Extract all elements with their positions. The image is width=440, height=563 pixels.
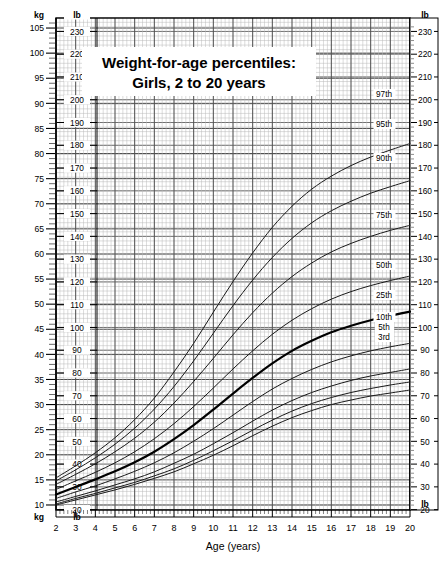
kg-tick-label-left: 65 — [34, 224, 44, 234]
x-tick-label-15: 15 — [307, 523, 317, 533]
lb-tick-label-left: 190 — [70, 118, 84, 128]
lb-tick-label-right: 30 — [420, 482, 430, 492]
x-tick-label-3: 3 — [73, 523, 78, 533]
kg-tick-label-left: 75 — [34, 174, 44, 184]
kg-tick-label-left: 85 — [34, 124, 44, 134]
x-tick-label-17: 17 — [346, 523, 356, 533]
lb-tick-label-left: 180 — [70, 140, 84, 150]
lb-tick-label-left: 200 — [70, 95, 84, 105]
kg-tick-label-left: 20 — [34, 450, 44, 460]
lb-tick-label-left: 150 — [70, 209, 84, 219]
x-tick-label-4: 4 — [93, 523, 98, 533]
kg-tick-label-left: 15 — [34, 475, 44, 485]
kg-tick-label-left: 45 — [34, 324, 44, 334]
x-tick-label-20: 20 — [405, 523, 415, 533]
chart-title-line1: Weight-for-age percentiles: — [102, 54, 296, 71]
lb-unit-top-left: lb — [73, 10, 81, 20]
lb-tick-label-right: 220 — [418, 49, 432, 59]
lb-tick-label-right: 60 — [420, 414, 430, 424]
lb-tick-label-left: 120 — [70, 277, 84, 287]
lb-tick-label-left: 80 — [72, 368, 82, 378]
kg-tick-label-left: 25 — [34, 425, 44, 435]
lb-tick-label-right: 190 — [418, 118, 432, 128]
lb-tick-label-right: 230 — [418, 27, 432, 37]
growth-chart-svg: 1051009590858075706560555045403530252015… — [0, 0, 440, 563]
kg-tick-label-left: 70 — [34, 199, 44, 209]
kg-tick-label-left: 95 — [34, 73, 44, 83]
x-tick-label-18: 18 — [366, 523, 376, 533]
lb-tick-label-left: 140 — [70, 232, 84, 242]
lb-tick-label-left: 50 — [72, 437, 82, 447]
lb-tick-label-left: 110 — [70, 300, 84, 310]
lb-tick-label-left: 90 — [72, 345, 82, 355]
lb-tick-label-right: 120 — [418, 277, 432, 287]
lb-tick-label-right: 200 — [418, 95, 432, 105]
percentile-label-97th: 97th — [376, 90, 392, 99]
kg-unit-bottom-left: kg — [34, 512, 44, 522]
lb-tick-label-right: 160 — [418, 186, 432, 196]
kg-tick-label-left: 50 — [34, 299, 44, 309]
lb-tick-label-left: 230 — [70, 27, 84, 37]
kg-tick-label-left: 80 — [34, 149, 44, 159]
kg-tick-label-left: 40 — [34, 350, 44, 360]
x-axis-title: Age (years) — [206, 540, 260, 552]
lb-tick-label-right: 80 — [420, 368, 430, 378]
x-tick-label-5: 5 — [112, 523, 117, 533]
lb-tick-label-right: 130 — [418, 254, 432, 264]
lb-tick-label-right: 180 — [418, 140, 432, 150]
kg-tick-label-left: 60 — [34, 249, 44, 259]
lb-unit-bottom-right: lb — [421, 499, 429, 509]
lb-tick-label-left: 70 — [72, 391, 82, 401]
lb-tick-label-right: 140 — [418, 232, 432, 242]
percentile-label-90th: 90th — [376, 154, 392, 163]
x-tick-label-7: 7 — [152, 523, 157, 533]
kg-tick-label-left: 55 — [34, 274, 44, 284]
x-tick-label-8: 8 — [171, 523, 176, 533]
lb-tick-label-left: 130 — [70, 254, 84, 264]
lb-tick-label-left: 100 — [70, 323, 84, 333]
x-tick-label-13: 13 — [267, 523, 277, 533]
x-tick-label-6: 6 — [132, 523, 137, 533]
percentile-label-3rd: 3rd — [378, 333, 390, 342]
kg-tick-label-left: 105 — [30, 23, 45, 33]
kg-unit-top-left: kg — [34, 10, 44, 20]
kg-tick-label-left: 30 — [34, 400, 44, 410]
percentile-label-50th: 50th — [376, 261, 392, 270]
lb-tick-label-right: 70 — [420, 391, 430, 401]
x-tick-label-10: 10 — [208, 523, 218, 533]
percentile-label-10th: 10th — [376, 313, 392, 322]
lb-tick-label-left: 170 — [70, 163, 84, 173]
x-tick-label-9: 9 — [191, 523, 196, 533]
lb-tick-label-right: 50 — [420, 437, 430, 447]
lb-tick-label-right: 150 — [418, 209, 432, 219]
lb-unit-top-right: lb — [421, 10, 429, 20]
lb-tick-label-right: 210 — [418, 72, 432, 82]
lb-tick-label-right: 90 — [420, 345, 430, 355]
lb-tick-label-left: 60 — [72, 414, 82, 424]
percentile-label-95th: 95th — [376, 120, 392, 129]
x-tick-label-11: 11 — [228, 523, 237, 533]
lb-tick-label-right: 170 — [418, 163, 432, 173]
kg-tick-label-left: 10 — [34, 500, 44, 510]
x-tick-label-19: 19 — [385, 523, 395, 533]
percentile-label-25th: 25th — [376, 291, 392, 300]
lb-tick-label-right: 110 — [418, 300, 432, 310]
kg-tick-label-left: 35 — [34, 375, 44, 385]
x-tick-label-14: 14 — [287, 523, 297, 533]
kg-tick-label-left: 100 — [30, 48, 45, 58]
lb-tick-label-right: 40 — [420, 459, 430, 469]
chart-title-line2: Girls, 2 to 20 years — [132, 74, 265, 91]
x-tick-label-16: 16 — [326, 523, 336, 533]
growth-chart: 1051009590858075706560555045403530252015… — [0, 0, 440, 563]
x-tick-label-2: 2 — [53, 523, 58, 533]
lb-tick-label-left: 160 — [70, 186, 84, 196]
kg-tick-label-left: 90 — [34, 99, 44, 109]
lb-tick-label-right: 100 — [418, 323, 432, 333]
percentile-label-5th: 5th — [378, 323, 390, 332]
percentile-label-75th: 75th — [376, 211, 392, 220]
x-tick-label-12: 12 — [248, 523, 258, 533]
